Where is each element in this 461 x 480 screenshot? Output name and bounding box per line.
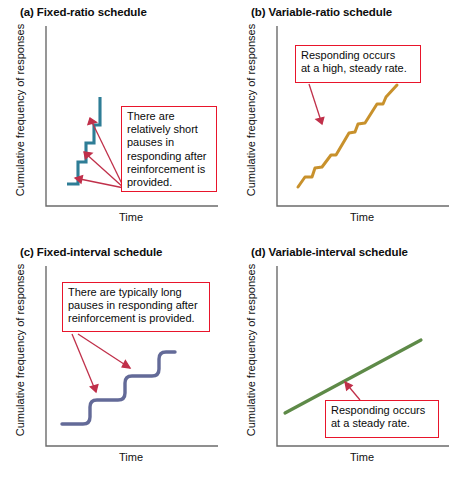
- panel-b-callout: Responding occurs at a high, steady rate…: [295, 45, 421, 83]
- panel-c-y-axis-label: Cumulative frequency of responses: [14, 260, 26, 440]
- panel-c-callout: There are typically long pauses in respo…: [62, 282, 210, 332]
- panel-d-title: (d) Variable-interval schedule: [251, 246, 408, 258]
- panel-a-y-axis-label: Cumulative frequency of responses: [14, 20, 26, 200]
- panel-variable-interval: (d) Variable-interval schedule Cumulativ…: [231, 240, 461, 480]
- panel-b-curve: [298, 85, 397, 187]
- panel-variable-ratio: (b) Variable-ratio schedule Cumulative f…: [231, 0, 461, 240]
- panel-d-callout: Responding occurs at a steady rate.: [325, 400, 439, 438]
- panel-d-x-axis-label: Time: [277, 451, 447, 463]
- panel-fixed-interval: (c) Fixed-interval schedule Cumulative f…: [0, 240, 230, 480]
- panel-a-title: (a) Fixed-ratio schedule: [20, 6, 147, 18]
- panel-b-arrows: [309, 84, 324, 124]
- panel-a-callout: There are relatively short pauses in res…: [121, 106, 217, 192]
- panel-d-arrows: [345, 382, 360, 400]
- panel-b-title: (b) Variable-ratio schedule: [251, 6, 392, 18]
- panel-d-y-axis-label: Cumulative frequency of responses: [245, 260, 257, 440]
- panel-c-plot: [0, 240, 230, 480]
- panel-c-arrows: [72, 334, 130, 392]
- panel-a-arrows: [75, 118, 124, 188]
- panel-c-curve: [62, 352, 175, 424]
- panel-b-x-axis-label: Time: [277, 211, 447, 223]
- panel-c-x-axis-label: Time: [46, 451, 216, 463]
- figure-reinforcement-schedules: (a) Fixed-ratio schedule Cumulative freq…: [0, 0, 461, 480]
- panel-c-title: (c) Fixed-interval schedule: [20, 246, 162, 258]
- panel-a-x-axis-label: Time: [46, 211, 216, 223]
- panel-a-curve: [67, 97, 100, 184]
- panel-fixed-ratio: (a) Fixed-ratio schedule Cumulative freq…: [0, 0, 230, 240]
- panel-b-plot: [231, 0, 461, 240]
- panel-d-plot: [231, 240, 461, 480]
- panel-b-y-axis-label: Cumulative frequency of responses: [245, 20, 257, 200]
